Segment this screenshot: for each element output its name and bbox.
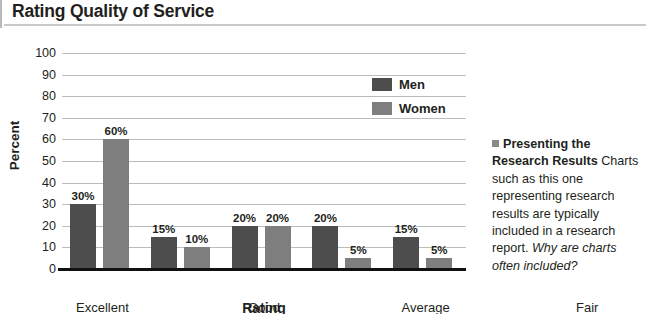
- legend-item-women[interactable]: Women: [372, 99, 482, 118]
- bar-men-average[interactable]: 20%: [232, 226, 258, 269]
- y-axis-tick-label: 60: [12, 132, 56, 146]
- sidenote-lead: Presenting the Research Results: [492, 137, 598, 168]
- sidenote-block: Presenting the Research Results Charts s…: [492, 136, 642, 275]
- y-axis-tick-label: 30: [12, 197, 56, 211]
- legend-label: Women: [399, 101, 446, 116]
- bar-value-label: 15%: [395, 223, 418, 235]
- y-axis-tick-label: 80: [12, 89, 56, 103]
- y-axis-tick-label: 100: [12, 46, 56, 60]
- legend-swatch-women: [372, 102, 392, 115]
- y-axis-tick-label: 40: [12, 176, 56, 190]
- bar-women-average[interactable]: 20%: [265, 226, 291, 269]
- legend-swatch-men: [372, 78, 392, 91]
- y-axis-tick-label: 50: [12, 154, 56, 168]
- bar-value-label: 60%: [104, 125, 127, 137]
- bar-value-label: 20%: [266, 212, 289, 224]
- bar-value-label: 15%: [152, 223, 175, 235]
- bar-men-fair[interactable]: 20%: [312, 226, 338, 269]
- legend-item-men[interactable]: Men: [372, 75, 482, 94]
- header-divider: [4, 24, 646, 26]
- y-axis-tick-label: 10: [12, 240, 56, 254]
- y-axis-tick-label: 70: [12, 111, 56, 125]
- bar-value-label: 5%: [431, 244, 448, 256]
- header-bar: Rating Quality of Service: [0, 0, 646, 28]
- bar-women-excellent[interactable]: 60%: [103, 139, 129, 269]
- bar-value-label: 30%: [71, 190, 94, 202]
- y-axis-ticks: 0102030405060708090100: [8, 53, 56, 269]
- bar-value-label: 20%: [314, 212, 337, 224]
- x-axis-category-label: Fair: [532, 300, 642, 314]
- bar-men-good[interactable]: 15%: [151, 237, 177, 269]
- y-axis-tick-label: 90: [12, 68, 56, 82]
- bar-men-excellent[interactable]: 30%: [70, 204, 96, 269]
- bar-group: 30%60%Excellent: [62, 53, 143, 269]
- bar-women-good[interactable]: 10%: [184, 247, 210, 269]
- chart-legend: MenWomen: [372, 75, 482, 123]
- bar-group: 20%20%Average: [224, 53, 305, 269]
- legend-label: Men: [399, 77, 425, 92]
- bar-men-poor[interactable]: 15%: [393, 237, 419, 269]
- x-axis-line: [58, 268, 466, 271]
- y-axis-tick-label: 20: [12, 219, 56, 233]
- bar-chart: Percent 0102030405060708090100 30%60%Exc…: [0, 28, 478, 314]
- page-title: Rating Quality of Service: [12, 1, 214, 22]
- bar-value-label: 10%: [185, 233, 208, 245]
- bar-value-label: 20%: [233, 212, 256, 224]
- y-axis-tick-label: 0: [12, 262, 56, 276]
- x-axis-title: Rating: [62, 300, 466, 314]
- bar-value-label: 5%: [350, 244, 367, 256]
- bar-group: 15%10%Good: [143, 53, 224, 269]
- square-bullet-icon: [492, 140, 499, 147]
